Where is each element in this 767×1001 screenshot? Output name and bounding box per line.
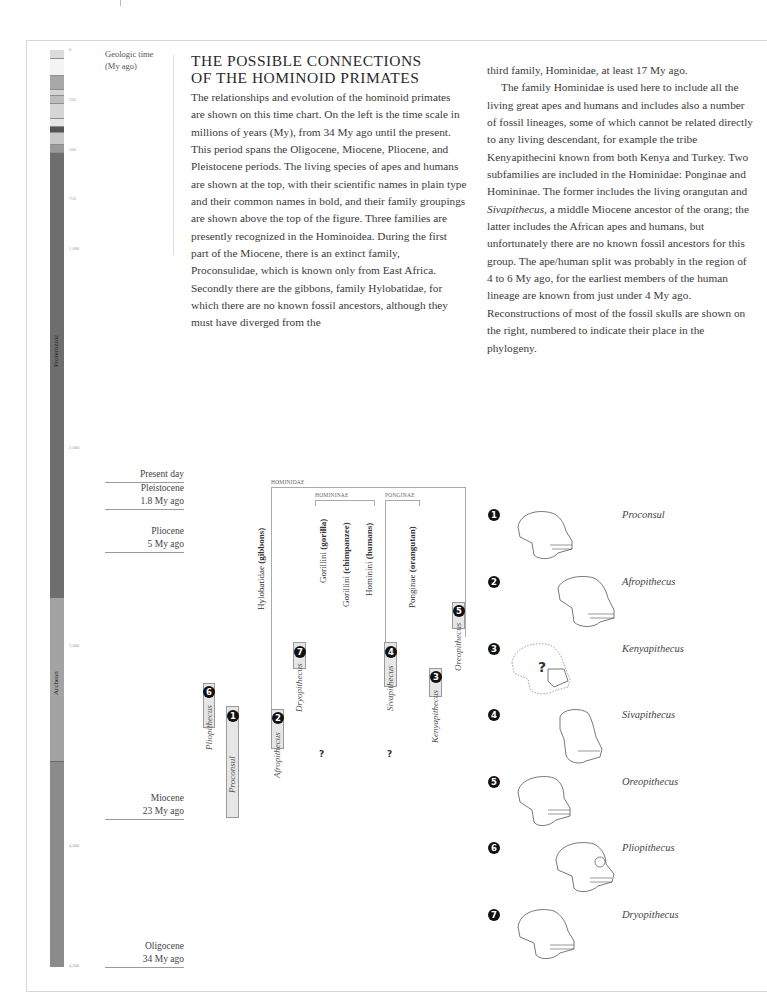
taxon-scientific: Gorillini — [341, 576, 351, 607]
skull-name: Pliopithecus — [622, 842, 675, 853]
skull-icon — [552, 840, 618, 896]
taxon-common: (orangutan) — [407, 526, 417, 572]
eon-label-proterozoic: Proterozoic — [52, 335, 60, 367]
homininae-bracket — [315, 500, 375, 501]
scale-segment — [50, 133, 64, 145]
tick-label: 4,600 — [69, 963, 79, 968]
skull-name: Sivapithecus — [622, 709, 675, 720]
fossil-label-sivapithecus: Sivapithecus — [385, 666, 395, 712]
taxon-common: (gibbons) — [256, 528, 266, 564]
ponginae-stem-line — [385, 500, 386, 650]
skull-name: Kenyapithecus — [622, 643, 684, 654]
epoch-present-day: Present day — [105, 468, 184, 483]
taxon-common: (humans) — [364, 523, 374, 560]
column-divider — [173, 55, 174, 255]
ponginae-bracket — [385, 500, 420, 501]
fossil-label-kenyapithecus: Kenyapithecus — [430, 690, 440, 743]
epoch-pliocene: Pliocene5 My ago — [105, 525, 184, 553]
skull-icon — [514, 907, 580, 963]
scale-segment — [50, 59, 64, 76]
top-crop-mark — [120, 0, 211, 6]
paragraph-text: The family Hominidae is used here to inc… — [487, 81, 753, 197]
fossil-number-badge: 3 — [430, 671, 442, 683]
group-label-ponginae: PONGINAE — [385, 492, 415, 498]
hadean-segment — [50, 762, 64, 967]
tick-label: 3,000 — [69, 643, 79, 648]
taxon-scientific: Gorillini — [318, 552, 328, 583]
fossil-number-badge: 2 — [488, 576, 500, 588]
epoch-age: 1.8 My ago — [105, 495, 184, 508]
epoch-miocene: Miocene23 My ago — [105, 792, 184, 820]
epoch-age: 23 My ago — [105, 805, 184, 818]
skull-row-kenyapithecus: 3 ? Kenyapithecus — [488, 641, 754, 701]
skull-row-sivapithecus: 4 Sivapithecus — [488, 707, 754, 767]
fossil-number-badge: 6 — [203, 686, 215, 698]
skull-name: Oreopithecus — [622, 776, 678, 787]
taxon-chimpanzee: Gorillini (chimpanzee) — [341, 522, 351, 607]
skull-icon — [514, 507, 578, 563]
skull-row-dryopithecus: 7 Dryopithecus — [488, 907, 754, 967]
heading-line-2: OF THE HOMINOID PRIMATES — [191, 69, 419, 86]
skull-icon — [554, 574, 618, 630]
group-label-homininae: HOMININAE — [315, 492, 349, 498]
tick-label: 500 — [69, 147, 76, 152]
epoch-oligocene: Oligocene34 My ago — [105, 940, 184, 968]
taxon-common: (chimpanzee) — [341, 522, 351, 574]
article-column-2: third family, Hominidae, at least 17 My … — [487, 62, 754, 357]
fossil-label-oreopithecus: Oreopithecus — [453, 623, 463, 671]
tick-label: 250 — [69, 97, 76, 102]
fossil-number-badge: 4 — [385, 646, 397, 658]
article-paragraph: The relationships and evolution of the h… — [191, 89, 467, 332]
geologic-time-title: Geologic time (My ago) — [105, 48, 153, 72]
skull-row-pliopithecus: 6 Pliopithecus — [488, 840, 754, 900]
hominidae-right-line — [465, 487, 466, 637]
taxon-humans: Hominini (humans) — [364, 523, 374, 596]
epoch-age: 5 My ago — [105, 538, 184, 551]
epoch-pleistocene: Pleistocene1.8 My ago — [105, 482, 184, 510]
skull-row-oreopithecus: 5 Oreopithecus — [488, 774, 754, 834]
tick-label: 0 — [69, 47, 71, 52]
tick-label: 1,000 — [69, 246, 79, 251]
fossil-number-badge: 4 — [488, 709, 500, 721]
unknown-ancestor-marker: ? — [387, 749, 392, 759]
fossil-label-pliopithecus: Pliopithecus — [204, 705, 214, 750]
fossil-label-dryopithecus: Dryopithecus — [294, 664, 304, 713]
taxon-scientific: Hylobatidae — [256, 566, 266, 610]
fossil-number-badge: 2 — [272, 712, 284, 724]
paragraph-text: , a middle Miocene ancestor of the orang… — [487, 203, 749, 354]
heading-line-1: THE POSSIBLE CONNECTIONS — [191, 52, 422, 69]
fossil-number-badge: 3 — [488, 643, 500, 655]
tick-label: 750 — [69, 196, 76, 201]
fossil-number-badge: 5 — [488, 776, 500, 788]
article-heading: THE POSSIBLE CONNECTIONS OF THE HOMINOID… — [191, 52, 471, 86]
proterozoic-segment — [50, 153, 64, 598]
unknown-ancestor-marker: ? — [319, 749, 324, 759]
taxon-scientific: Ponginae — [407, 575, 417, 609]
skull-icon — [554, 707, 610, 767]
geologic-time-units: (My ago) — [105, 60, 153, 72]
epoch-name: Pleistocene — [105, 482, 184, 495]
skull-row-proconsul: 1 Proconsul — [488, 507, 754, 567]
scale-segment — [50, 76, 64, 90]
scale-segment — [50, 145, 64, 153]
article-column-1: The relationships and evolution of the h… — [191, 89, 467, 332]
scale-segment — [50, 50, 64, 59]
taxon-common: (gorilla) — [318, 519, 328, 550]
taxon-orangutan: Ponginae (orangutan) — [407, 526, 417, 608]
fossil-number-badge: 1 — [227, 710, 239, 722]
taxon-scientific: Hominini — [364, 561, 374, 596]
homininae-bracket-end — [374, 500, 375, 506]
eon-label-archean: Archean — [52, 671, 60, 695]
epoch-name: Present day — [105, 468, 184, 481]
fossil-number-badge: 1 — [488, 509, 500, 521]
article-paragraph: The family Hominidae is used here to inc… — [487, 79, 754, 357]
skull-row-afropithecus: 2 Afropithecus — [488, 574, 754, 634]
group-label-hominidae: HOMINIDAE — [271, 479, 305, 485]
fossil-label-proconsul: Proconsul — [227, 756, 237, 793]
fossil-number-badge: 5 — [453, 605, 465, 617]
taxon-gorilla: Gorillini (gorilla) — [318, 519, 328, 583]
ponginae-bracket-end — [419, 500, 420, 506]
fossil-label-afropithecus: Afropithecus — [272, 732, 282, 778]
epoch-name: Oligocene — [105, 940, 184, 953]
epoch-name: Miocene — [105, 792, 184, 805]
